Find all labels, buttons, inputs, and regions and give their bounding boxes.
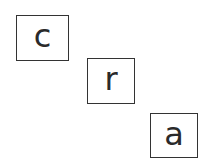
tile-letter: c: [34, 20, 52, 52]
tile-letter: a: [164, 118, 184, 150]
letter-tile-c: c: [16, 15, 69, 61]
letter-tile-r: r: [87, 58, 135, 104]
tile-letter: r: [104, 63, 117, 95]
letter-tile-a: a: [150, 113, 198, 158]
